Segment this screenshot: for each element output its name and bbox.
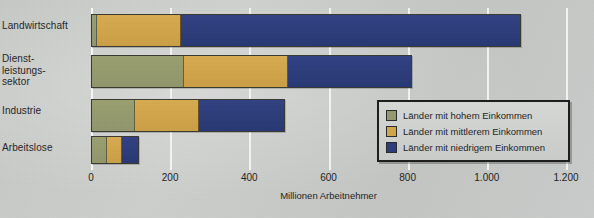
value-axis-ticks: 0 200 400 600 800 1.000 1.200 (91, 172, 566, 186)
bar-segment-high-income (92, 100, 135, 131)
category-label-landwirtschaft: Landwirtschaft (2, 20, 88, 32)
bar-segment-high-income (92, 137, 107, 163)
category-label-dienstleistungssektor: Dienst- leistungs- sektor (2, 53, 88, 88)
legend-swatch-icon-middle-income (386, 126, 397, 137)
bar-segment-low-income (181, 15, 519, 46)
xtick-0: 0 (88, 172, 94, 183)
bar-landwirtschaft (91, 14, 521, 47)
bar-segment-middle-income (97, 15, 181, 46)
bar-segment-middle-income (135, 100, 199, 131)
bar-segment-low-income (199, 100, 284, 131)
legend-item-high-income: Länder mit hohem Einkommen (386, 107, 561, 123)
bar-dienstleistungssektor (91, 55, 412, 88)
legend-label-high-income: Länder mit hohem Einkommen (403, 110, 532, 121)
bar-segment-high-income (92, 56, 184, 87)
category-axis-labels: Landwirtschaft Dienst- leistungs- sektor… (0, 8, 88, 168)
bar-segment-low-income (122, 137, 138, 163)
xtick-600: 600 (320, 172, 337, 183)
category-label-arbeitslose: Arbeitslose (2, 142, 88, 154)
bar-segment-low-income (288, 56, 411, 87)
xtick-200: 200 (162, 172, 179, 183)
chart-legend: Länder mit hohem Einkommen Länder mit mi… (377, 100, 570, 162)
chart-figure: Landwirtschaft Dienst- leistungs- sektor… (0, 0, 594, 218)
xtick-1000: 1.000 (474, 172, 499, 183)
legend-item-middle-income: Länder mit mittlerem Einkommen (386, 123, 561, 139)
category-label-industrie: Industrie (2, 105, 88, 117)
bar-segment-middle-income (184, 56, 288, 87)
xtick-800: 800 (399, 172, 416, 183)
x-axis-title: Millionen Arbeitnehmer (91, 190, 566, 201)
xtick-1200: 1.200 (553, 172, 578, 183)
legend-swatch-icon-low-income (386, 142, 397, 153)
legend-item-low-income: Länder mit niedrigem Einkommen (386, 139, 561, 155)
bar-industrie (91, 99, 285, 132)
bar-arbeitslose (91, 136, 139, 164)
legend-label-middle-income: Länder mit mittlerem Einkommen (403, 126, 542, 137)
legend-label-low-income: Länder mit niedrigem Einkommen (403, 142, 545, 153)
xtick-400: 400 (241, 172, 258, 183)
bar-segment-middle-income (107, 137, 122, 163)
legend-swatch-icon-high-income (386, 110, 397, 121)
